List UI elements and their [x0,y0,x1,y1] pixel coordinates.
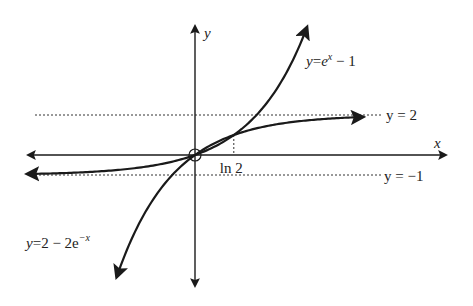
curve-two-minus-two-exp-neg [117,117,363,277]
ln2-label: ln 2 [220,160,243,176]
asymptote-label-y2: y = 2 [386,107,417,123]
asymptote-label-ym1: y = −1 [384,168,423,184]
graph-figure: y x ln 2 y = 2 y = −1 y=ex − 1 y=2 − 2e−… [0,0,473,306]
curve-label-sat: y=2 − 2e−x [24,232,91,251]
curve-label-exp: y=ex − 1 [304,51,356,69]
graph-canvas: y x ln 2 y = 2 y = −1 y=ex − 1 y=2 − 2e−… [0,0,473,306]
y-axis-label: y [202,25,211,41]
curve-exp-minus-one [27,27,307,174]
x-axis-label: x [433,135,441,151]
